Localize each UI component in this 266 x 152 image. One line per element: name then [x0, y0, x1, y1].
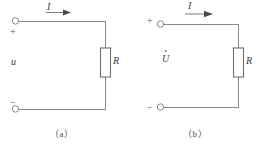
figure-canvas: I + u − R （a） I — [0, 0, 266, 152]
voltage-label-b-text: U — [162, 53, 169, 64]
voltage-label-a: u — [11, 57, 16, 67]
current-label-b: I — [188, 1, 191, 11]
terminal-top-a — [12, 18, 18, 24]
caption-a: （a） — [50, 130, 74, 139]
polarity-minus-a: − — [10, 98, 16, 108]
phasor-voltage-glyph: U — [162, 54, 169, 64]
voltage-label-b: U — [162, 54, 169, 64]
polarity-plus-b: + — [147, 16, 153, 26]
resistor-label-a: R — [113, 56, 119, 66]
resistor-label-b: R — [246, 56, 252, 66]
polarity-plus-a: + — [10, 27, 16, 37]
polarity-minus-b: − — [147, 103, 153, 113]
circuit-diagram-b: I + U − R （b） — [133, 0, 266, 152]
terminal-bottom-b — [157, 104, 163, 110]
terminal-top-b — [157, 21, 163, 27]
phasor-current-glyph: I — [188, 1, 191, 11]
current-arrow-b — [185, 11, 213, 17]
current-label-a: I — [47, 2, 50, 12]
resistor-symbol-a — [101, 48, 111, 77]
circuit-diagram-a: I + u − R （a） — [0, 0, 133, 152]
resistor-symbol-b — [234, 48, 244, 77]
overdot-icon — [165, 50, 167, 52]
caption-b: （b） — [183, 130, 207, 139]
current-label-b-text: I — [188, 0, 191, 11]
